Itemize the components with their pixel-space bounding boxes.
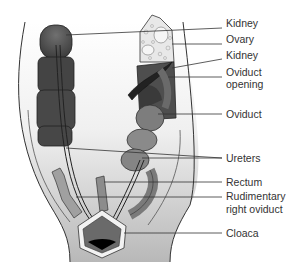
label-cloaca: Cloaca bbox=[226, 227, 259, 239]
label-kidney-right: Kidney bbox=[226, 49, 258, 61]
label-oviduct-opening-1: Oviduct bbox=[226, 66, 262, 78]
label-oviduct-opening-2: opening bbox=[226, 78, 263, 90]
label-ovary: Ovary bbox=[226, 33, 254, 45]
left-kidney bbox=[37, 25, 75, 146]
label-rudimentary-1: Rudimentary bbox=[226, 190, 286, 202]
label-oviduct: Oviduct bbox=[226, 108, 262, 120]
anatomy-diagram bbox=[0, 0, 304, 265]
label-kidney-left: Kidney bbox=[226, 17, 258, 29]
label-rudimentary-2: right oviduct bbox=[226, 203, 283, 215]
label-ureters: Ureters bbox=[226, 152, 260, 164]
label-rectum: Rectum bbox=[226, 176, 262, 188]
